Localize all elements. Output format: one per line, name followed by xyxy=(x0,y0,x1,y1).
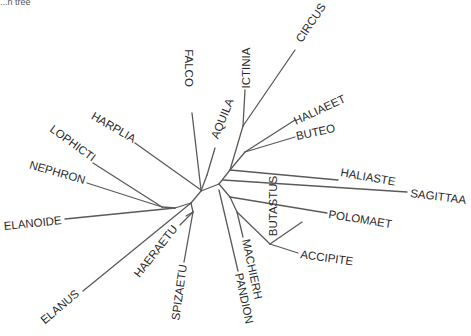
label-nephron: NEPHRON xyxy=(28,159,87,186)
branch-buteo xyxy=(245,137,295,152)
label-polomaet: POLOMAET xyxy=(328,208,393,230)
label-buteo: BUTEO xyxy=(295,122,336,142)
label-spizaetu: SPIZAETU xyxy=(169,264,189,321)
branch-elanoide xyxy=(65,208,175,219)
branch-haliaste xyxy=(230,170,338,180)
branch-aquila xyxy=(207,148,215,175)
label-haliaste: HALIASTE xyxy=(340,166,397,188)
branch-ictinia xyxy=(243,90,245,126)
phylogenetic-tree: FALCO AQUILA ICTINIA CIRCUS HALIAEET BUT… xyxy=(0,0,471,336)
branch-harplia xyxy=(135,143,201,190)
branch-haliaeet xyxy=(245,120,295,152)
label-accipite: ACCIPITE xyxy=(300,248,355,267)
label-elanus: ELANUS xyxy=(38,287,81,326)
label-falco: FALCO xyxy=(183,49,195,87)
internal-branches xyxy=(162,126,270,244)
branch-lophicti xyxy=(93,163,162,207)
label-lophicti: LOPHICTI xyxy=(48,123,98,164)
label-harplia: HARPLIA xyxy=(89,110,138,145)
label-aquila: AQUILA xyxy=(209,96,236,140)
branch-nephron xyxy=(87,183,162,207)
label-ictinia: ICTINIA xyxy=(240,47,252,88)
label-circus: CIRCUS xyxy=(293,1,328,45)
branch-pandion xyxy=(219,190,238,271)
label-elanoide: ELANOIDE xyxy=(3,214,62,232)
branch-falco xyxy=(192,113,201,190)
branch-accipite xyxy=(270,244,298,253)
label-sagittaa: SAGITTAA xyxy=(410,187,467,206)
label-butastus: BUTASTUS xyxy=(267,175,279,236)
label-haliaeet: HALIAEET xyxy=(292,92,347,126)
